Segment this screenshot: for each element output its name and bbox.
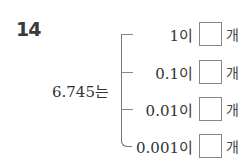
place-label: 1이 xyxy=(169,24,193,45)
place-row-hundredths: 0.01이 개 xyxy=(0,96,247,122)
answer-box[interactable] xyxy=(199,134,222,158)
unit-label: 개 xyxy=(226,99,239,119)
place-row-ones: 1이 개 xyxy=(0,21,247,47)
place-label: 0.01이 xyxy=(146,99,193,120)
unit-label: 개 xyxy=(226,24,239,44)
unit-label: 개 xyxy=(226,62,239,82)
unit-label: 개 xyxy=(226,136,239,156)
answer-box[interactable] xyxy=(199,22,222,46)
answer-box[interactable] xyxy=(199,97,222,121)
place-row-tenths: 0.1이 개 xyxy=(0,59,247,85)
place-label: 0.001이 xyxy=(136,136,193,157)
answer-box[interactable] xyxy=(199,60,222,84)
place-label: 0.1이 xyxy=(155,62,193,83)
bracket-vertical-line xyxy=(121,34,122,143)
place-row-thousandths: 0.001이 개 xyxy=(0,133,247,159)
